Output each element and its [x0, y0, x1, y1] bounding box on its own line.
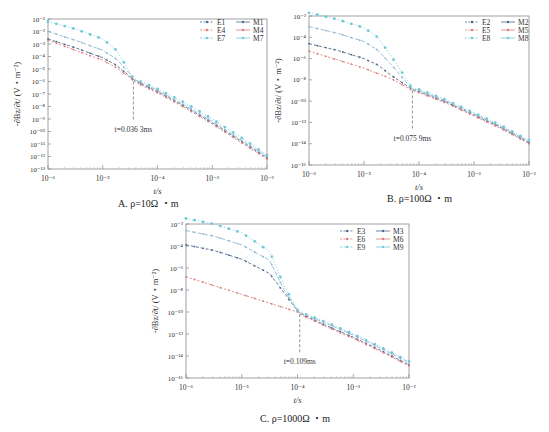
y-tick-label: 10⁻¹⁶	[168, 375, 184, 383]
data-point	[72, 49, 74, 51]
data-point	[207, 118, 209, 120]
data-point	[165, 94, 167, 96]
data-point	[305, 314, 307, 316]
data-point	[237, 292, 239, 294]
series-line	[309, 51, 529, 144]
data-point	[249, 147, 251, 149]
data-point	[452, 105, 454, 107]
data-point	[486, 119, 488, 121]
x-tick-label: 10⁻⁵	[357, 170, 371, 179]
data-point	[81, 49, 83, 51]
data-point	[365, 340, 367, 342]
data-point	[89, 52, 91, 54]
data-point	[198, 110, 201, 113]
data-point	[253, 240, 256, 243]
data-point	[331, 325, 333, 327]
series-line	[186, 231, 409, 363]
data-point	[148, 88, 150, 90]
data-point	[173, 99, 175, 101]
data-point	[245, 246, 247, 248]
data-point	[384, 75, 386, 77]
y-tick-label: 10⁻¹⁶	[291, 162, 307, 170]
data-point	[131, 79, 133, 81]
chart-panel-a: 10⁻⁶10⁻⁵10⁻⁴10⁻³10⁻²10⁻¹10⁻²10⁻³10⁻⁴10⁻⁵…	[0, 0, 280, 215]
data-point	[325, 47, 327, 49]
data-point	[384, 57, 386, 59]
data-point	[237, 257, 239, 259]
data-point	[224, 129, 226, 131]
data-point	[245, 261, 247, 263]
data-point	[228, 240, 230, 242]
data-point	[342, 34, 344, 36]
data-point	[185, 244, 187, 246]
y-tick-label: 10⁻⁴	[170, 243, 184, 251]
data-point	[528, 143, 530, 145]
data-point	[266, 158, 268, 160]
data-point	[511, 134, 513, 136]
data-point	[342, 61, 344, 63]
data-point	[359, 39, 361, 41]
data-point	[382, 352, 384, 354]
data-point	[241, 142, 243, 144]
data-point	[173, 101, 175, 103]
plot-frame	[48, 19, 267, 169]
data-point	[418, 92, 420, 94]
chart-a-caption: A. ρ=10Ω ・m	[118, 195, 179, 210]
data-point	[240, 137, 243, 140]
data-point	[382, 349, 384, 351]
y-tick-label: 10⁻¹⁰	[29, 128, 45, 136]
y-tick-label: 10⁻¹⁰	[167, 309, 183, 317]
legend-entry: E7	[217, 34, 226, 43]
data-point	[408, 365, 410, 367]
data-point	[486, 121, 488, 123]
data-point	[224, 131, 226, 133]
chart-panel-c: 10⁻⁶10⁻⁵10⁻⁴10⁻³10⁻²10⁻²10⁻⁴10⁻⁶10⁻⁸10⁻¹…	[150, 215, 420, 432]
x-tick-label: 10⁻⁶	[179, 383, 193, 392]
data-point	[279, 287, 281, 289]
data-point	[367, 60, 369, 62]
data-point	[288, 308, 290, 310]
data-point	[219, 225, 222, 228]
data-point	[271, 264, 273, 266]
data-point	[202, 220, 205, 223]
data-point	[350, 63, 352, 65]
data-point	[348, 336, 350, 338]
data-point	[401, 84, 403, 86]
x-tick-label: 10⁻⁴	[412, 170, 426, 179]
series-line	[309, 13, 529, 141]
chart-c-plot: 10⁻⁶10⁻⁵10⁻⁴10⁻³10⁻²10⁻²10⁻⁴10⁻⁶10⁻⁸10⁻¹…	[150, 215, 420, 415]
data-point	[232, 131, 235, 134]
chart-c-caption: C. ρ=1000Ω ・m	[260, 410, 330, 425]
data-point	[443, 102, 445, 104]
data-point	[325, 15, 328, 18]
data-point	[357, 336, 359, 338]
data-point	[148, 86, 150, 88]
data-point	[375, 35, 378, 38]
x-tick-label: 10⁻³	[467, 170, 481, 179]
data-point	[89, 55, 91, 57]
data-point	[106, 59, 108, 61]
data-point	[190, 111, 192, 113]
data-point	[81, 52, 83, 54]
data-point	[165, 96, 167, 98]
data-point	[185, 230, 187, 232]
data-point	[339, 329, 341, 331]
data-point	[427, 95, 429, 97]
data-point	[211, 284, 213, 286]
data-point	[245, 295, 247, 297]
data-point	[314, 318, 316, 320]
legend-entry: M9	[393, 243, 404, 252]
data-point	[367, 29, 370, 32]
data-point	[228, 254, 230, 256]
data-point	[190, 105, 193, 108]
data-point	[55, 22, 58, 25]
data-point	[202, 247, 204, 249]
data-point	[140, 82, 142, 84]
data-point	[391, 356, 393, 358]
data-point	[317, 45, 319, 47]
data-point	[106, 62, 108, 64]
y-tick-label: 10⁻⁶	[32, 78, 46, 86]
data-point	[350, 54, 352, 56]
y-tick-label: 10⁻⁸	[170, 287, 184, 295]
y-tick-label: 10⁻¹²	[30, 153, 45, 161]
